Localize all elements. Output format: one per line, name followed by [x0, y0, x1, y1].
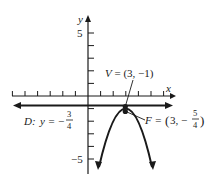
- focus-frac-num: 5: [193, 108, 197, 118]
- focus-prefix: F =: [144, 114, 162, 126]
- y-tick-label-neg5: −5: [71, 153, 83, 165]
- focus-close-paren: ): [200, 113, 204, 128]
- vertex-eq: = (3, −1): [112, 67, 154, 80]
- focus-frac-den: 4: [193, 120, 198, 130]
- y-axis-label: y: [77, 13, 83, 25]
- focus-label: F = ( 3, − 5 4 ): [144, 108, 204, 130]
- x-axis-arrow-icon: [170, 93, 176, 99]
- directrix-line: [13, 102, 173, 109]
- parabola-right-arrow-icon: [149, 161, 156, 170]
- vertex-leader-line: [125, 80, 133, 107]
- focus-point: [123, 109, 128, 114]
- directrix-equation: y = −: [39, 115, 65, 127]
- focus-open-paren: (: [165, 113, 169, 128]
- parabola-left-arrow-icon: [95, 161, 102, 170]
- x-axis-label: x: [165, 82, 171, 94]
- directrix-name: D:: [23, 115, 36, 127]
- focus-coords: 3, −: [170, 114, 187, 126]
- directrix-left-arrow-icon: [13, 102, 21, 109]
- vertex-label: V = (3, −1): [105, 67, 154, 80]
- directrix-frac-den: 4: [67, 121, 72, 131]
- parabola-graph: x y 5 −5 D: y = − 3 4: [0, 0, 211, 181]
- directrix-right-arrow-icon: [165, 102, 173, 109]
- y-axis-arrow-icon: [85, 15, 91, 22]
- y-tick-label-5: 5: [77, 27, 83, 39]
- directrix-frac-num: 3: [67, 109, 71, 119]
- x-axis: x: [12, 82, 176, 99]
- y-axis: y 5 −5: [71, 13, 94, 174]
- directrix-label: D: y = − 3 4: [23, 109, 73, 131]
